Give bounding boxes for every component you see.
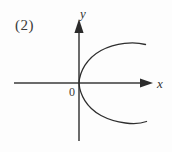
y-axis-label: y: [80, 7, 86, 20]
x-axis-arrowhead: [140, 78, 153, 87]
figure-part-label: (2): [15, 18, 34, 33]
origin-label: 0: [69, 86, 75, 98]
parabola-upper-branch: [79, 43, 146, 83]
parabola-lower-branch: [79, 83, 147, 124]
x-axis-label: x: [157, 77, 163, 90]
y-axis-arrowhead: [74, 19, 83, 33]
figure-container: (2) y x 0: [0, 0, 172, 152]
